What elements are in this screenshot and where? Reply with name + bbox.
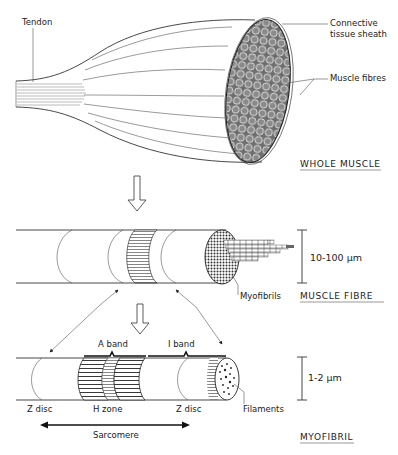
tendon-fibres: [16, 81, 86, 107]
fibres-leader: [300, 79, 328, 95]
scale-label-fibre: 10-100 µm: [310, 252, 362, 263]
muscle-structure-diagram: Tendon Connective tissue sheath Muscle f…: [0, 0, 398, 455]
i-band-bracket: [148, 352, 226, 356]
protruding-myofibrils: [224, 240, 294, 261]
label-i-band: I band: [168, 339, 195, 349]
scale-bar-myofibril: [297, 357, 307, 400]
scale-bar-fibre: [297, 230, 307, 283]
a-band-bracket: [84, 352, 146, 356]
label-z-disc-right: Z disc: [176, 404, 202, 414]
label-filaments: Filaments: [243, 404, 284, 414]
title-myofibril: MYOFIBRIL: [300, 432, 353, 442]
zoom-arrow-left: [50, 305, 100, 352]
down-arrow-icon: [128, 176, 146, 211]
label-sarcomere: Sarcomere: [93, 430, 139, 440]
scale-label-myofibril: 1-2 µm: [308, 372, 342, 383]
muscle-cross-section: [217, 15, 298, 166]
muscle-fibre-illustration: [16, 230, 294, 295]
label-connective-tissue-sheath-1: Connective: [330, 18, 378, 28]
title-whole-muscle: WHOLE MUSCLE: [300, 159, 381, 169]
fascicle-lines: [83, 27, 240, 154]
whole-muscle-illustration: [16, 13, 328, 169]
label-muscle-fibres: Muscle fibres: [330, 73, 386, 83]
down-arrow-icon-2: [131, 304, 149, 334]
label-a-band: A band: [98, 339, 128, 349]
label-z-disc-left: Z disc: [27, 404, 53, 414]
zoom-arrow-right: [176, 290, 196, 307]
title-muscle-fibre: MUSCLE FIBRE: [300, 291, 373, 301]
label-tendon: Tendon: [21, 17, 52, 27]
label-connective-tissue-sheath-2: tissue sheath: [330, 29, 387, 39]
label-myofibrils: Myofibrils: [240, 291, 282, 301]
label-h-zone: H zone: [93, 404, 122, 414]
myofibril-illustration: [16, 352, 244, 404]
sarcomere-span-arrow: [40, 422, 190, 429]
